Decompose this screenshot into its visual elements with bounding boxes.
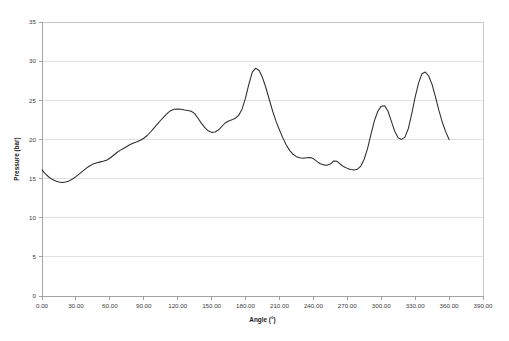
y-axis-tick-label: 35 [29,18,36,25]
x-axis-tick-label: 270.00 [338,302,357,309]
pressure-angle-line-chart: 0.0030.0060.0090.00120.00150.00180.00210… [0,0,509,341]
y-axis-tick-label: 5 [33,253,37,260]
x-axis-tick-label: 0.00 [36,302,49,309]
x-axis-tick-label: 300.00 [372,302,391,309]
x-axis-tick-label: 240.00 [304,302,323,309]
x-axis-tick-label: 210.00 [270,302,289,309]
x-axis-tick-label: 90.00 [136,302,152,309]
x-axis-tick-label: 330.00 [406,302,425,309]
y-axis-tick-label: 10 [29,214,36,221]
x-axis-tick-label: 180.00 [236,302,255,309]
x-axis-tick-label: 150.00 [202,302,221,309]
y-axis-tick-label: 30 [29,57,36,64]
y-axis-tick-label: 15 [29,175,36,182]
chart-background [0,0,509,341]
x-axis-tick-label: 60.00 [102,302,118,309]
y-axis-tick-label: 25 [29,97,36,104]
y-axis-tick-label: 0 [33,292,37,299]
x-axis-tick-label: 120.00 [168,302,187,309]
x-axis-tick-label: 390.00 [474,302,493,309]
x-axis-tick-label: 360.00 [440,302,459,309]
y-axis-title: Pressure (bar) [13,137,21,180]
x-axis-title: Angle (°) [249,316,275,324]
y-axis-tick-label: 20 [29,136,36,143]
chart-container: 0.0030.0060.0090.00120.00150.00180.00210… [0,0,509,341]
x-axis-tick-label: 30.00 [68,302,84,309]
